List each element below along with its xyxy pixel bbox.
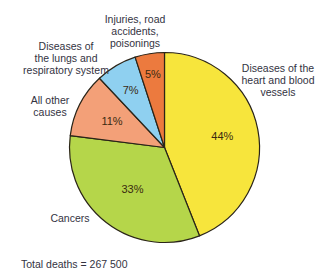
label-heart: Diseases of the heart and blood vessels	[232, 62, 324, 98]
label-cancers: Cancers	[40, 212, 100, 224]
percent-label-other: 11%	[101, 115, 122, 127]
label-other: All other causes	[20, 94, 80, 118]
label-injuries: Injuries, road accidents, poisonings	[100, 13, 170, 49]
percent-label-injuries: 5%	[145, 68, 161, 80]
percent-label-lungs: 7%	[123, 84, 139, 96]
total-deaths: Total deaths = 267 500	[21, 258, 128, 270]
percent-label-cancers: 33%	[121, 183, 143, 195]
percent-label-heart: 44%	[211, 130, 233, 142]
